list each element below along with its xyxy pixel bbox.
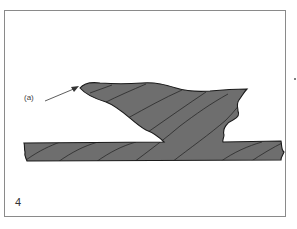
stray-mark — [294, 78, 296, 80]
callout-label-a: (a) — [24, 93, 34, 102]
weld-bead-and-plate — [24, 83, 284, 162]
callout-arrow — [45, 86, 79, 101]
figure-number: 4 — [15, 196, 21, 208]
weld-diagram — [0, 0, 297, 229]
